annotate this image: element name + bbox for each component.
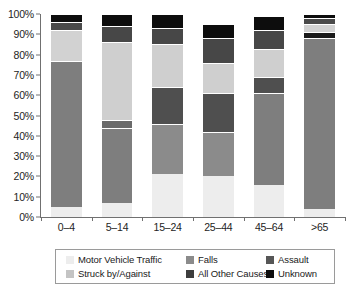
legend-swatch-icon <box>266 256 274 264</box>
x-axis-tick-label: 45–64 <box>255 222 283 233</box>
y-axis-tick-mark <box>36 135 40 136</box>
bar-segment[interactable] <box>102 120 132 128</box>
bar-segment[interactable] <box>304 24 334 32</box>
bar-segment[interactable] <box>203 24 233 38</box>
legend-item[interactable]: Motor Vehicle Traffic <box>66 255 162 265</box>
legend-label: Struck by/Against <box>78 269 150 279</box>
bar-segment[interactable] <box>152 14 182 28</box>
legend-swatch-icon <box>66 256 74 264</box>
bar-stack <box>254 14 284 217</box>
y-axis-tick-mark <box>36 196 40 197</box>
bar-column[interactable] <box>102 14 132 217</box>
bar-segment[interactable] <box>304 38 334 209</box>
legend-label: Assault <box>278 255 308 265</box>
legend-swatch-icon <box>66 270 74 278</box>
y-axis-tick-label: 30% <box>14 151 34 162</box>
bar-column[interactable] <box>203 14 233 217</box>
y-axis-tick-mark <box>36 95 40 96</box>
bar-segment[interactable] <box>254 16 284 30</box>
bar-stack <box>51 14 81 217</box>
bar-segment[interactable] <box>304 32 334 38</box>
legend-item[interactable]: Falls <box>186 255 218 265</box>
legend-item[interactable]: All Other Causes <box>186 269 268 279</box>
bar-stack <box>102 14 132 217</box>
bar-segment[interactable] <box>51 22 81 30</box>
y-axis-tick-mark <box>36 217 40 218</box>
bar-segment[interactable] <box>152 28 182 44</box>
bar-segment[interactable] <box>304 209 334 217</box>
bar-stack <box>304 14 334 217</box>
y-axis-tick-mark <box>36 156 40 157</box>
y-axis-tick-label: 70% <box>14 70 34 81</box>
legend-row-1: Motor Vehicle TrafficFallsAssault <box>60 253 330 267</box>
y-axis-tick-mark <box>36 74 40 75</box>
legend-swatch-icon <box>186 270 194 278</box>
legend-item[interactable]: Struck by/Against <box>66 269 150 279</box>
bar-segment[interactable] <box>102 128 132 203</box>
bar-segment[interactable] <box>304 18 334 24</box>
bar-segment[interactable] <box>203 63 233 93</box>
bar-segment[interactable] <box>304 14 334 18</box>
x-axis-tick-mark <box>345 217 346 221</box>
x-axis-tick-label: 5–14 <box>106 222 129 233</box>
y-axis-tick-label: 20% <box>14 171 34 182</box>
y-axis-tick-label: 0% <box>19 212 34 223</box>
stacked-bar-chart: 0%10%20%30%40%50%60%70%80%90%100% 0–45–1… <box>0 0 349 291</box>
y-axis-tick-label: 60% <box>14 90 34 101</box>
x-axis-tick-label: 0–4 <box>58 222 75 233</box>
bar-segment[interactable] <box>152 44 182 87</box>
bar-segment[interactable] <box>254 49 284 77</box>
bar-segment[interactable] <box>51 14 81 22</box>
y-axis-tick-mark <box>36 115 40 116</box>
y-axis-tick-mark <box>36 54 40 55</box>
bar-segment[interactable] <box>152 124 182 175</box>
y-axis: 0%10%20%30%40%50%60%70%80%90%100% <box>0 0 40 243</box>
legend-item[interactable]: Unknown <box>266 269 317 279</box>
bar-segment[interactable] <box>254 185 284 217</box>
bar-segment[interactable] <box>102 26 132 42</box>
bars-container <box>41 14 345 217</box>
chart-legend: Motor Vehicle TrafficFallsAssault Struck… <box>55 249 335 284</box>
bar-segment[interactable] <box>152 87 182 124</box>
bar-segment[interactable] <box>51 61 81 207</box>
x-axis-tick-label: 25–44 <box>204 222 232 233</box>
bar-segment[interactable] <box>203 176 233 217</box>
x-axis-tick-mark <box>92 217 93 221</box>
x-axis-tick-label: 15–24 <box>154 222 182 233</box>
bar-segment[interactable] <box>203 38 233 62</box>
bar-segment[interactable] <box>152 174 182 217</box>
x-axis-tick-mark <box>294 217 295 221</box>
y-axis-tick-mark <box>36 34 40 35</box>
bar-stack <box>203 14 233 217</box>
bar-column[interactable] <box>51 14 81 217</box>
legend-item[interactable]: Assault <box>266 255 308 265</box>
y-axis-tick-label: 10% <box>14 191 34 202</box>
legend-swatch-icon <box>266 270 274 278</box>
bar-segment[interactable] <box>254 30 284 48</box>
bar-segment[interactable] <box>203 132 233 177</box>
bar-segment[interactable] <box>254 77 284 93</box>
bar-segment[interactable] <box>203 93 233 132</box>
bar-segment[interactable] <box>102 42 132 119</box>
legend-row-2: Struck by/AgainstAll Other CausesUnknown <box>60 267 330 281</box>
bar-column[interactable] <box>304 14 334 217</box>
y-axis-tick-label: 40% <box>14 131 34 142</box>
bar-segment[interactable] <box>102 203 132 217</box>
legend-label: All Other Causes <box>198 269 268 279</box>
bar-column[interactable] <box>152 14 182 217</box>
plot-area: 0%10%20%30%40%50%60%70%80%90%100% 0–45–1… <box>0 0 349 243</box>
bar-segment[interactable] <box>51 207 81 217</box>
x-axis-tick-mark <box>142 217 143 221</box>
x-axis-tick-label: >65 <box>311 222 328 233</box>
bar-segment[interactable] <box>51 30 81 60</box>
x-axis-tick-mark <box>244 217 245 221</box>
y-axis-tick-label: 90% <box>14 29 34 40</box>
y-axis-tick-mark <box>36 14 40 15</box>
x-axis-tick-mark <box>193 217 194 221</box>
legend-label: Unknown <box>278 269 317 279</box>
bar-segment[interactable] <box>102 14 132 26</box>
y-axis-tick-label: 80% <box>14 49 34 60</box>
y-axis-tick-label: 50% <box>14 110 34 121</box>
bar-column[interactable] <box>254 14 284 217</box>
bar-segment[interactable] <box>254 93 284 184</box>
